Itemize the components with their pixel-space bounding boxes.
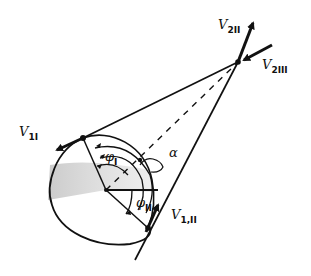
label-v1-I-main: V <box>19 124 28 139</box>
orbit-diagram <box>0 0 311 276</box>
label-v2-III-sub: 2III <box>271 65 287 75</box>
label-v2-II-sub: 2II <box>227 25 240 35</box>
label-phi-II-main: φ <box>136 195 145 210</box>
label-phi-I-main: φ <box>105 149 114 164</box>
label-phi-I-sub: I <box>114 157 117 167</box>
label-v2-III-main: V <box>262 57 271 72</box>
label-phi-II-sub: II <box>145 203 152 213</box>
point-mid <box>138 158 142 162</box>
label-v1-I: V1I <box>19 125 38 142</box>
label-v1-II-main: V <box>171 207 180 222</box>
tangent-line-lower <box>135 62 238 260</box>
dashed-axis-line <box>106 64 236 190</box>
label-phi-II: φII <box>136 196 152 213</box>
label-v1-II-sub: 1,II <box>180 215 196 225</box>
label-v2-III: V2III <box>262 58 288 75</box>
point-center <box>104 188 108 192</box>
label-alpha-main: α <box>169 145 178 160</box>
label-alpha: α <box>169 146 178 159</box>
tangent-line-upper <box>83 62 238 138</box>
vector-v1-I <box>57 138 83 150</box>
label-v1-II: V1,II <box>171 208 197 225</box>
label-v1-I-sub: 1I <box>28 132 38 142</box>
label-v2-II-main: V <box>218 17 227 32</box>
label-v2-II: V2II <box>218 18 240 35</box>
label-phi-I: φI <box>105 150 117 167</box>
